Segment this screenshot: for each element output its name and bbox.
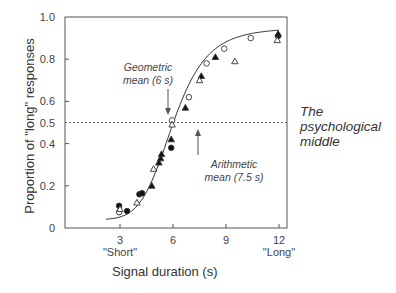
- arithmetic-label-1: Arithmetic: [210, 158, 258, 170]
- arithmetic-label-2: mean (7.5 s): [205, 171, 264, 183]
- data-point: [124, 208, 130, 214]
- fit-curve: [106, 30, 279, 219]
- arrow-down-icon: [165, 108, 171, 115]
- y-tick-label: 0.8: [40, 53, 55, 65]
- data-point: [168, 136, 174, 142]
- y-tick-label: 0.5: [40, 117, 55, 129]
- side-label-1: The: [300, 104, 323, 119]
- fit-curve-path: [106, 30, 279, 219]
- data-point: [150, 166, 156, 172]
- data-point: [139, 190, 145, 196]
- data-point: [212, 54, 218, 60]
- y-tick-label: 0: [49, 222, 55, 234]
- y-tick-label: 0.6: [40, 95, 55, 107]
- axes: 00.20.40.50.60.81.03"Short"6912"Long": [40, 11, 296, 258]
- x-tick-sublabel: "Short": [103, 246, 137, 258]
- x-tick-label: 9: [223, 234, 229, 246]
- geometric-label-2: mean (6 s): [123, 74, 173, 86]
- x-tick-label: 6: [170, 234, 176, 246]
- data-point: [221, 46, 227, 52]
- x-axis-title: Signal duration (s): [112, 264, 218, 279]
- y-tick-label: 0.4: [40, 138, 55, 150]
- arrow-up-icon: [195, 129, 201, 136]
- data-point: [134, 199, 140, 205]
- data-point: [158, 151, 164, 157]
- x-tick-label: 12: [273, 234, 285, 246]
- data-point: [168, 145, 174, 151]
- y-axis-title: Proportion of "long" responses: [22, 38, 37, 214]
- geometric-label-1: Geometric: [124, 61, 173, 73]
- data-point: [186, 94, 192, 100]
- x-tick-label: 3: [117, 234, 123, 246]
- chart: 00.20.40.50.60.81.03"Short"6912"Long" Ge…: [0, 0, 396, 293]
- x-tick-sublabel: "Long": [263, 246, 295, 258]
- data-point: [204, 61, 210, 67]
- y-tick-label: 0.2: [40, 180, 55, 192]
- data-point: [248, 35, 254, 41]
- side-label-3: middle: [300, 134, 340, 149]
- data-point: [232, 58, 238, 64]
- data-point: [182, 104, 188, 110]
- side-label-2: psychological: [299, 119, 382, 134]
- data-point: [275, 31, 281, 37]
- y-tick-label: 1.0: [40, 11, 55, 23]
